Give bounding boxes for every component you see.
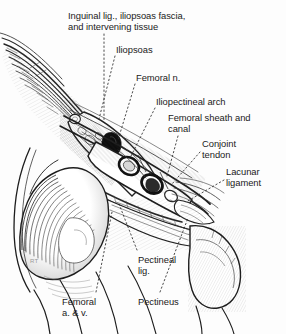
label-pectineal-ligament: Pectineal lig. xyxy=(138,254,176,276)
anatomical-figure: Inguinal lig., iliopsoas fascia, and int… xyxy=(0,0,286,334)
label-iliopsoas: Iliopsoas xyxy=(116,44,153,55)
label-iliopectineal-arch: Iliopectineal arch xyxy=(156,96,225,107)
label-femoral-nerve: Femoral n. xyxy=(136,72,180,83)
superior-pubic-ramus xyxy=(188,226,246,312)
artist-mark: RT xyxy=(30,258,39,264)
label-conjoint-tendon: Conjoint tendon xyxy=(202,138,236,160)
label-pectineus: Pectineus xyxy=(138,296,179,307)
label-lacunar-ligament: Lacunar ligament xyxy=(226,166,261,188)
label-femoral-vessels: Femoral a. & v. xyxy=(62,296,96,318)
label-inguinal-ligament: Inguinal lig., iliopsoas fascia, and int… xyxy=(68,10,185,32)
pectineus-muscle xyxy=(100,198,200,250)
label-femoral-sheath-and-canal: Femoral sheath and canal xyxy=(168,112,250,134)
